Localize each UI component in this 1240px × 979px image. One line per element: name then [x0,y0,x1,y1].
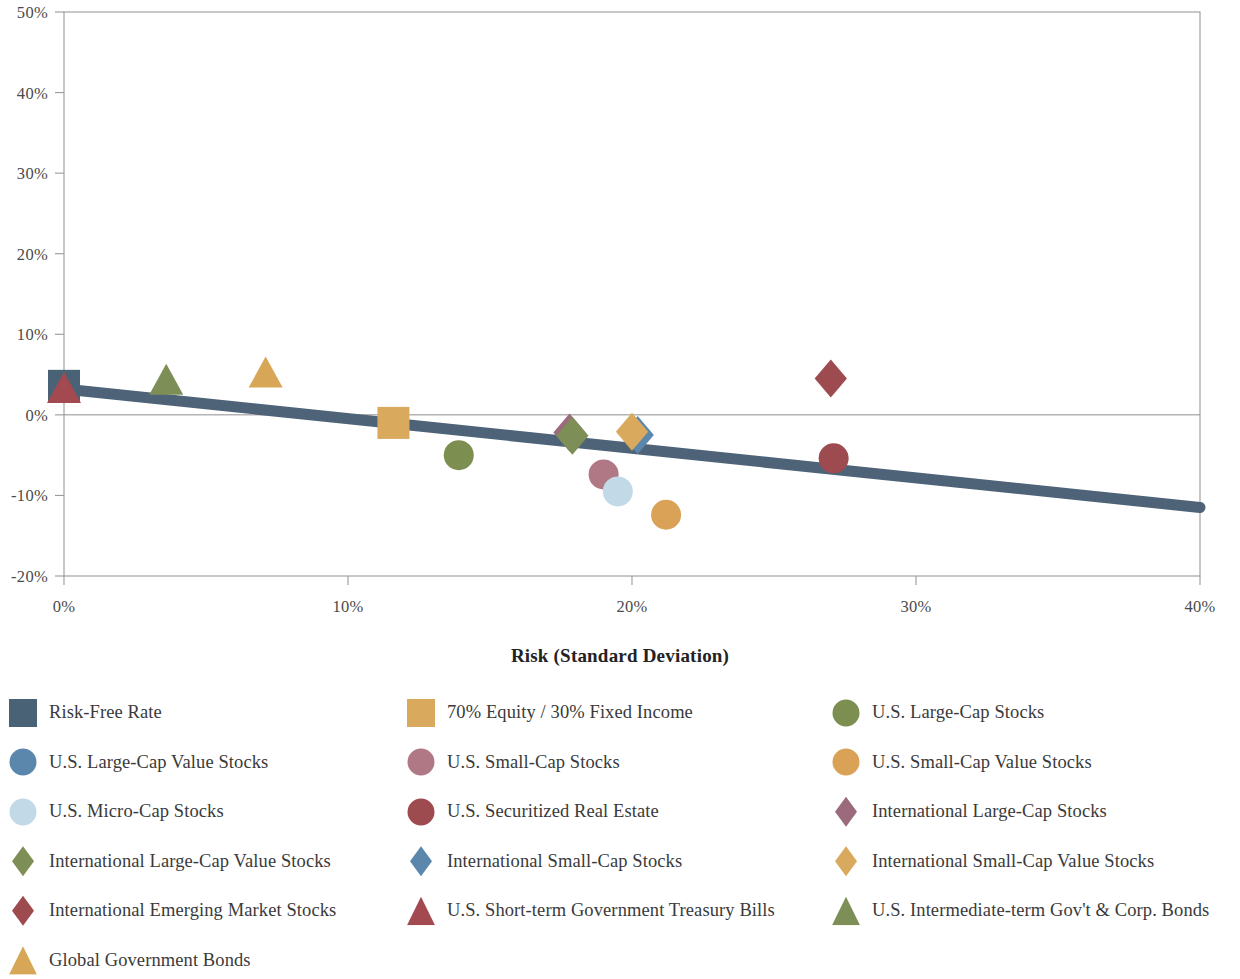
y-tick-label: -20% [11,567,48,586]
legend-diamond-icon [406,846,436,876]
legend-triangle-icon [831,896,861,926]
legend-circle-icon [831,747,861,777]
legend-item-label: International Large-Cap Stocks [872,801,1107,822]
legend-row: U.S. Micro-Cap StocksU.S. Securitized Re… [0,787,1240,837]
x-tick-label: 40% [1184,597,1215,616]
legend-row: Risk-Free Rate70% Equity / 30% Fixed Inc… [0,688,1240,738]
data-point-square[interactable] [377,407,409,439]
x-tick-label: 30% [900,597,931,616]
legend-item[interactable]: International Small-Cap Value Stocks [831,837,1154,887]
x-axis-title: Risk (Standard Deviation) [0,645,1240,667]
legend-circle-icon [406,797,436,827]
legend-row: Global Government Bonds [0,936,1240,979]
legend-item-label: U.S. Small-Cap Stocks [447,752,620,773]
legend-item[interactable]: International Emerging Market Stocks [8,886,336,936]
x-tick-label: 20% [616,597,647,616]
legend-item-label: U.S. Large-Cap Stocks [872,702,1044,723]
legend-diamond-icon [831,797,861,827]
legend-circle-icon [831,698,861,728]
data-point[interactable] [444,440,474,470]
data-point[interactable] [377,407,409,439]
data-point-diamond[interactable] [815,360,847,398]
legend-item[interactable]: U.S. Small-Cap Value Stocks [831,738,1092,788]
data-point[interactable] [556,417,588,455]
y-tick-label: 40% [17,84,48,103]
legend-item-label: U.S. Securitized Real Estate [447,801,659,822]
data-point[interactable] [249,357,283,388]
y-tick-label: 30% [17,164,48,183]
legend-item[interactable]: U.S. Securitized Real Estate [406,787,659,837]
legend-item[interactable]: U.S. Short-term Government Treasury Bill… [406,886,775,936]
legend-circle-icon [8,747,38,777]
data-point-circle[interactable] [651,500,681,530]
legend-item-label: International Small-Cap Value Stocks [872,851,1154,872]
legend-triangle-icon [8,945,38,975]
legend-row: U.S. Large-Cap Value StocksU.S. Small-Ca… [0,738,1240,788]
legend-circle-icon [406,747,436,777]
legend-item-label: International Large-Cap Value Stocks [49,851,331,872]
chart-plot-area: 50%40%30%20%10%0%-10%-20%0%10%20%30%40% … [0,0,1240,680]
legend-item-label: U.S. Large-Cap Value Stocks [49,752,268,773]
legend-row: International Large-Cap Value StocksInte… [0,837,1240,887]
legend-diamond-icon [8,846,38,876]
legend-diamond-icon [831,846,861,876]
legend-item[interactable]: International Small-Cap Stocks [406,837,682,887]
legend-item-label: U.S. Short-term Government Treasury Bill… [447,900,775,921]
legend-item[interactable]: 70% Equity / 30% Fixed Income [406,688,693,738]
data-point-triangle[interactable] [249,357,283,388]
legend-item-label: U.S. Micro-Cap Stocks [49,801,224,822]
x-tick-label: 0% [53,597,76,616]
legend-square-icon [8,698,38,728]
legend-item[interactable]: U.S. Small-Cap Stocks [406,738,620,788]
legend-square-icon [406,698,436,728]
legend-item-label: Risk-Free Rate [49,702,162,723]
legend-item-label: U.S. Small-Cap Value Stocks [872,752,1092,773]
x-tick-label: 10% [332,597,363,616]
legend-item-label: International Small-Cap Stocks [447,851,682,872]
data-point-triangle[interactable] [149,364,183,395]
y-tick-label: -10% [11,486,48,505]
data-point[interactable] [819,443,849,473]
data-point-diamond[interactable] [556,417,588,455]
y-tick-label: 20% [17,245,48,264]
legend-item[interactable]: U.S. Micro-Cap Stocks [8,787,224,837]
legend-item-label: 70% Equity / 30% Fixed Income [447,702,693,723]
legend-item[interactable]: International Large-Cap Value Stocks [8,837,331,887]
data-point-circle[interactable] [819,443,849,473]
legend-diamond-icon [8,896,38,926]
legend-item[interactable]: Global Government Bonds [8,936,251,979]
data-point[interactable] [815,360,847,398]
legend-circle-icon [8,797,38,827]
legend-item[interactable]: U.S. Large-Cap Stocks [831,688,1044,738]
legend-item[interactable]: International Large-Cap Stocks [831,787,1107,837]
data-point[interactable] [603,476,633,506]
y-tick-label: 10% [17,325,48,344]
legend-item-label: U.S. Intermediate-term Gov't & Corp. Bon… [872,900,1209,921]
plot-svg: 50%40%30%20%10%0%-10%-20%0%10%20%30%40% [0,0,1240,680]
chart-legend: Risk-Free Rate70% Equity / 30% Fixed Inc… [0,688,1240,972]
legend-item[interactable]: Risk-Free Rate [8,688,162,738]
data-point-circle[interactable] [444,440,474,470]
legend-item[interactable]: U.S. Intermediate-term Gov't & Corp. Bon… [831,886,1209,936]
legend-item-label: International Emerging Market Stocks [49,900,336,921]
data-point-circle[interactable] [603,476,633,506]
data-point[interactable] [149,364,183,395]
legend-triangle-icon [406,896,436,926]
legend-row: International Emerging Market StocksU.S.… [0,886,1240,936]
legend-item-label: Global Government Bonds [49,950,251,971]
legend-item[interactable]: U.S. Large-Cap Value Stocks [8,738,268,788]
y-tick-label: 0% [25,406,48,425]
y-tick-label: 50% [17,3,48,22]
data-point[interactable] [651,500,681,530]
